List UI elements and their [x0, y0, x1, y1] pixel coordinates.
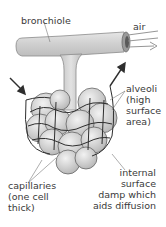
label-internal-surface-line: aids diffusion: [93, 200, 156, 211]
label-capillaries-line: (one cell: [8, 191, 56, 202]
label-alveoli-line: area): [126, 116, 161, 127]
label-capillaries-line: thick): [8, 202, 56, 213]
label-internal-surface: internal surface damp which aids diffusi…: [93, 167, 156, 211]
label-alveoli: alveoli (high surface area): [126, 83, 161, 127]
air-flow-arrows: [128, 31, 158, 50]
label-capillaries: capillaries (one cell thick): [8, 180, 56, 213]
label-internal-surface-line: damp which: [93, 189, 156, 200]
label-internal-surface-line: internal: [93, 167, 156, 178]
label-air: air: [133, 21, 145, 32]
label-alveoli-line: (high: [126, 94, 161, 105]
label-bronchiole: bronchiole: [21, 15, 71, 26]
label-capillaries-line: capillaries: [8, 180, 56, 191]
label-alveoli-line: alveoli: [126, 83, 161, 94]
label-alveoli-line: surface: [126, 105, 161, 116]
label-internal-surface-line: surface: [93, 178, 156, 189]
